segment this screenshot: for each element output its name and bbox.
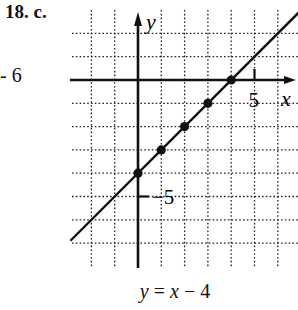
x-axis-arrow-icon <box>284 76 296 84</box>
data-point <box>227 75 236 84</box>
ticks: 5 −5 <box>138 69 259 209</box>
caption-minus: − <box>184 280 195 302</box>
caption-y: y <box>140 280 149 302</box>
y-axis-label: y <box>144 9 156 34</box>
data-point <box>180 122 189 131</box>
data-point <box>203 99 212 108</box>
caption-equals: = <box>154 280 165 302</box>
y-tick-label: −5 <box>152 185 174 209</box>
caption-constant: 4 <box>200 280 210 302</box>
data-point <box>133 169 142 178</box>
coordinate-plane: x y 5 −5 <box>0 0 298 310</box>
equation-caption: y = x − 4 <box>100 280 250 303</box>
x-tick-label: 5 <box>249 88 260 112</box>
caption-x: x <box>170 280 179 302</box>
y-axis-arrow-icon <box>134 12 142 26</box>
x-axis-label: x <box>280 86 291 111</box>
data-point <box>157 145 166 154</box>
